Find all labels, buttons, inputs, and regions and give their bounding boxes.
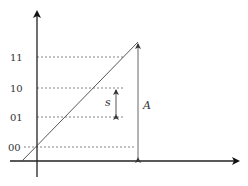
level-label-10: 10	[10, 83, 23, 94]
step-label: s	[105, 96, 111, 109]
ramp-line	[22, 42, 138, 161]
amplitude-label: A	[142, 99, 151, 112]
level-label-01: 01	[10, 112, 23, 123]
quantization-diagram: 11 10 01 00 s A	[0, 0, 248, 186]
level-label-11: 11	[10, 52, 23, 63]
level-label-00: 00	[8, 142, 21, 153]
